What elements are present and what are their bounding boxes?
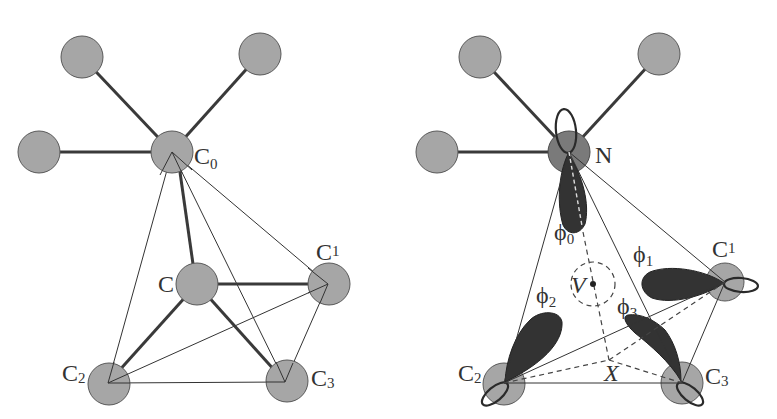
label-c: C [158, 271, 174, 297]
label-phi2: ϕ2 [536, 282, 556, 310]
label-c3: C3 [311, 365, 335, 391]
atom-left [416, 131, 458, 173]
label-n: N [595, 142, 612, 168]
atom-c2 [88, 363, 130, 405]
atom-c1 [308, 263, 350, 305]
label-c2: C2 [62, 360, 86, 386]
point-v [590, 281, 596, 287]
label-v: V [571, 272, 588, 298]
label-c1: C1 [316, 239, 340, 265]
atom-left [18, 131, 60, 173]
right-panel: N C1 C2 C3 ϕ0 ϕ1 ϕ2 ϕ3 V X [416, 33, 758, 410]
label-c3: C3 [705, 363, 729, 389]
label-phi3: ϕ3 [617, 293, 637, 321]
label-phi1: ϕ1 [633, 241, 653, 269]
atom-c3 [266, 360, 308, 402]
label-x: X [603, 360, 620, 386]
label-c2: C2 [458, 360, 482, 386]
atom-top-left [459, 36, 501, 78]
atom-top-right [239, 33, 281, 75]
label-c1: C1 [712, 236, 736, 262]
atom-top-right [638, 33, 680, 75]
tetrahedral-orbital-diagram: C0 C C1 C2 C3 [0, 0, 777, 419]
atom-c [176, 263, 218, 305]
bond-c0-c [178, 158, 193, 264]
edge-c2-c3 [108, 382, 285, 383]
label-c0: C0 [194, 143, 218, 172]
left-bonds [39, 54, 328, 383]
orbital-lobes [505, 154, 724, 382]
atom-top-left [61, 36, 103, 78]
left-panel: C0 C C1 C2 C3 [18, 33, 350, 405]
